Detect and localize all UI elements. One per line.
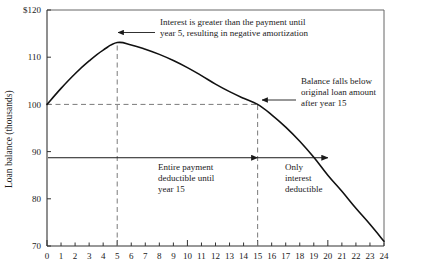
x-tick-label: 14 — [239, 251, 249, 261]
x-tick-label: 0 — [45, 251, 50, 261]
x-tick-label: 8 — [157, 251, 162, 261]
x-tick-label: 4 — [101, 251, 106, 261]
reference-lines — [47, 43, 258, 246]
plot-frame — [47, 10, 384, 246]
x-tick-label: 20 — [323, 251, 333, 261]
x-tick-label: 12 — [211, 251, 220, 261]
loan-balance-chart: 708090100110$120 01234567891011121314151… — [0, 0, 422, 272]
x-tick-label: 1 — [59, 251, 64, 261]
x-tick-label: 7 — [143, 251, 148, 261]
x-tick-label: 17 — [281, 251, 291, 261]
annotation-negative-amortization: Interest is greater than the payment unt… — [160, 17, 308, 38]
x-tick-label: 5 — [115, 251, 120, 261]
balance-below-original-line3: after year 15 — [301, 98, 347, 108]
loan-balance-curve — [47, 42, 384, 241]
annotation-balance-below-original: Balance falls below original loan amount… — [301, 76, 376, 108]
only-interest-line2: interest — [285, 173, 312, 183]
y-tick-label: $120 — [23, 5, 42, 15]
balance-below-original-line1: Balance falls below — [301, 76, 372, 86]
y-tick-label: 110 — [28, 52, 42, 62]
x-axis-ticks: 0123456789101112131415161718192021222324 — [45, 240, 389, 261]
y-axis-title: Loan balance (thousands) — [4, 90, 15, 188]
y-tick-label: 100 — [28, 100, 42, 110]
x-tick-label: 16 — [267, 251, 277, 261]
x-tick-label: 22 — [351, 251, 360, 261]
x-tick-label: 15 — [253, 251, 263, 261]
entire-payment-line2: deductible until — [158, 173, 215, 183]
entire-payment-line1: Entire payment — [158, 162, 214, 172]
x-tick-label: 18 — [295, 251, 305, 261]
x-tick-label: 2 — [73, 251, 78, 261]
balance-below-original-line2: original loan amount — [301, 87, 376, 97]
x-tick-label: 10 — [183, 251, 193, 261]
x-tick-label: 13 — [225, 251, 235, 261]
chart-svg: 708090100110$120 01234567891011121314151… — [0, 0, 422, 272]
negative-amortization-line1: Interest is greater than the payment unt… — [160, 17, 306, 27]
negative-amortization-line2: year 5, resulting in negative amortizati… — [160, 28, 308, 38]
x-tick-label: 6 — [129, 251, 134, 261]
x-tick-label: 24 — [380, 251, 390, 261]
entire-payment-line3: year 15 — [158, 184, 185, 194]
only-interest-line1: Only — [285, 162, 304, 172]
x-tick-label: 11 — [197, 251, 206, 261]
y-tick-label: 70 — [32, 241, 42, 251]
x-tick-label: 19 — [309, 251, 319, 261]
x-tick-label: 3 — [87, 251, 92, 261]
x-tick-label: 23 — [365, 251, 375, 261]
x-tick-label: 21 — [337, 251, 346, 261]
y-tick-label: 80 — [32, 194, 42, 204]
x-tick-label: 9 — [171, 251, 176, 261]
annotation-only-interest-deductible: Only interest deductible — [285, 162, 323, 194]
only-interest-line3: deductible — [285, 184, 323, 194]
annotation-entire-payment-deductible: Entire payment deductible until year 15 — [158, 162, 215, 194]
y-tick-label: 90 — [32, 147, 42, 157]
